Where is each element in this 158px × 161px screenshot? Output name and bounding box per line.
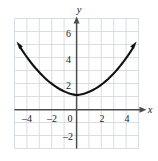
origin-label: 0	[68, 113, 73, 124]
x-axis-label: x	[147, 104, 153, 115]
graph-figure: –4 –2 0 2 4 6 4 2 –2 y x	[0, 0, 158, 161]
y-tick-label-neg2: –2	[62, 131, 73, 142]
y-tick-label-pos6: 6	[66, 28, 71, 39]
y-axis-label: y	[76, 4, 82, 15]
y-tick-label-pos2: 2	[66, 80, 71, 91]
x-axis-arrow	[140, 107, 147, 113]
x-tick-label-pos2: 2	[100, 113, 105, 124]
x-tick-label-neg2: –2	[46, 113, 57, 124]
x-tick-label-pos4: 4	[125, 113, 130, 124]
parabola-chart: –4 –2 0 2 4 6 4 2 –2 y x	[0, 0, 158, 161]
x-tick-label-neg4: –4	[21, 113, 32, 124]
y-tick-label-pos4: 4	[66, 54, 71, 65]
